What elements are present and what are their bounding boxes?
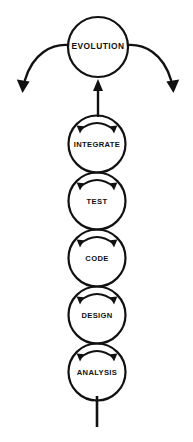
- feedback-arc-test: [77, 180, 118, 191]
- feedback-arc-path: [80, 294, 114, 301]
- feedback-arc-code: [77, 237, 118, 248]
- lifecycle-diagram: EVOLUTION INTEGRATE TEST CODE DESIGN ANA…: [0, 0, 193, 442]
- evolution-arrow-head: [93, 79, 103, 91]
- stage-label-integrate: INTEGRATE: [74, 140, 120, 149]
- branch-right-path: [128, 45, 171, 80]
- stage-label-code: CODE: [85, 254, 108, 263]
- stage-label-analysis: ANALYSIS: [77, 368, 118, 377]
- feedback-arrow-left-head: [77, 240, 84, 248]
- feedback-arc-integrate: [77, 123, 118, 134]
- branch-left-path: [25, 45, 68, 80]
- evolution-arrow-group: [93, 79, 103, 117]
- feedback-arc-path: [80, 351, 114, 358]
- feedback-arrow-right-head: [110, 354, 117, 362]
- feedback-arrow-left-head: [77, 126, 84, 134]
- feedback-arrow-left-head: [77, 354, 84, 362]
- feedback-arrow-right-head: [110, 240, 117, 248]
- branch-right-group: [128, 45, 179, 93]
- diagram-canvas: EVOLUTION INTEGRATE TEST CODE DESIGN ANA…: [0, 0, 193, 442]
- feedback-arrow-right-head: [110, 183, 117, 191]
- branch-left-group: [17, 45, 68, 93]
- feedback-arrow-left-head: [77, 183, 84, 191]
- feedback-arc-design: [77, 294, 118, 305]
- feedback-arc-path: [80, 237, 114, 244]
- feedback-arc-analysis: [77, 351, 118, 362]
- feedback-arrow-right-head: [110, 126, 117, 134]
- stage-label-design: DESIGN: [81, 311, 112, 320]
- branch-right-arrow-head: [166, 80, 179, 94]
- feedback-arrow-left-head: [77, 297, 84, 305]
- branch-left-arrow-head: [17, 80, 30, 94]
- feedback-arc-path: [80, 180, 114, 187]
- stage-label-test: TEST: [87, 197, 108, 206]
- feedback-arc-path: [80, 123, 114, 130]
- feedback-arrow-right-head: [110, 297, 117, 305]
- evolution-label: EVOLUTION: [72, 41, 125, 51]
